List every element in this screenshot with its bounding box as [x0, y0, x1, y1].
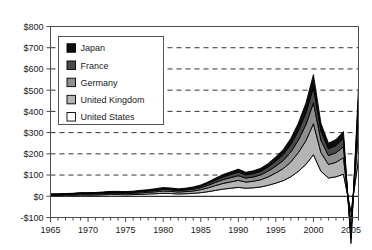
legend-swatch-france — [67, 61, 76, 69]
y-tick-label: $100 — [23, 170, 43, 180]
x-axis-ticks — [51, 218, 359, 223]
x-tick-label: 1980 — [153, 225, 173, 235]
y-tick-label: $800 — [23, 22, 43, 32]
legend-swatch-united-states — [67, 113, 76, 122]
x-tick-label: 1975 — [116, 225, 136, 235]
legend-label-united-states: United States — [81, 112, 136, 122]
chart-canvas: $800$700$600$500$400$300$200$100$0-$100 … — [0, 0, 372, 250]
legend-swatch-japan — [67, 44, 76, 53]
y-tick-label: -$100 — [20, 213, 43, 223]
legend-swatch-germany — [67, 78, 76, 87]
x-tick-label: 2000 — [303, 225, 323, 235]
chart-legend: JapanFranceGermanyUnited KingdomUnited S… — [59, 37, 164, 125]
legend-label-united-kingdom: United Kingdom — [81, 95, 145, 105]
legend-label-france: France — [81, 61, 109, 71]
legend-swatch-united-kingdom — [67, 95, 76, 104]
stacked-area-chart: $800$700$600$500$400$300$200$100$0-$100 … — [0, 0, 372, 250]
y-axis-labels: $800$700$600$500$400$300$200$100$0-$100 — [20, 22, 43, 223]
legend-label-japan: Japan — [81, 43, 106, 53]
y-tick-label: $700 — [23, 43, 43, 53]
y-tick-label: $200 — [23, 149, 43, 159]
y-tick-label: $0 — [33, 192, 43, 202]
x-tick-label: 1970 — [78, 225, 98, 235]
y-tick-label: $400 — [23, 107, 43, 117]
legend-label-germany: Germany — [81, 78, 119, 88]
x-axis-labels: 196519701975198019851990199520002005 — [40, 225, 361, 235]
y-tick-label: $600 — [23, 64, 43, 74]
x-tick-label: 2005 — [341, 225, 361, 235]
x-tick-label: 1965 — [40, 225, 60, 235]
x-tick-label: 1995 — [266, 225, 286, 235]
y-tick-label: $300 — [23, 128, 43, 138]
y-tick-label: $500 — [23, 86, 43, 96]
y-axis-ticks — [47, 27, 51, 218]
x-tick-label: 1990 — [228, 225, 248, 235]
x-tick-label: 1985 — [191, 225, 211, 235]
